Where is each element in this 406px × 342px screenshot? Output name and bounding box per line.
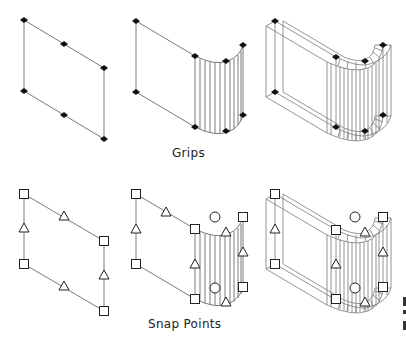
snap-points-caption: Snap Points: [148, 317, 221, 331]
grips-figure-flat-panel: [24, 20, 104, 139]
grip-markers-fig1: [20, 17, 108, 142]
grip-markers-fig3: [271, 18, 387, 134]
snap-figure-curved-panel: [136, 194, 243, 306]
snap-markers-fig4: [19, 190, 109, 316]
grips-figure-curved-panel: [136, 21, 243, 134]
diagram-canvas: [0, 0, 406, 342]
snap-markers-fig6: [270, 190, 388, 307]
snap-figure-thick-curved-panel: [266, 194, 391, 313]
grips-caption: Grips: [172, 146, 205, 160]
grips-figure-thick-curved-panel: [266, 21, 391, 141]
